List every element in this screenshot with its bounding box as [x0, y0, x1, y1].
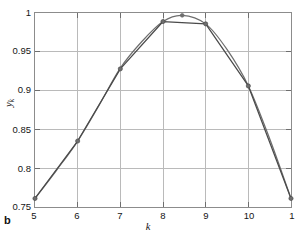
- data-point-marker: [33, 196, 37, 200]
- plot-svg: [35, 13, 291, 207]
- x-axis-title: k: [0, 220, 296, 230]
- data-point-marker: [289, 196, 293, 200]
- figure-panel: 1 0.95 0.9 0.85 0.8 0.75 yk: [0, 0, 296, 230]
- peak-marker: [180, 13, 184, 17]
- y-tick-label: 1: [26, 8, 31, 18]
- data-point-marker: [118, 67, 122, 71]
- y-axis-title: yk: [2, 92, 16, 114]
- x-axis-title-var: k: [146, 221, 151, 230]
- plot-area: [34, 12, 292, 208]
- panel-letter: b: [4, 215, 11, 226]
- grid-vertical: [78, 13, 249, 207]
- data-point-marker: [204, 22, 208, 26]
- y-axis-tick-labels: 1 0.95 0.9 0.85 0.8 0.75: [0, 0, 31, 230]
- y-tick-label: 0.85: [13, 125, 32, 135]
- y-tick-label: 0.95: [13, 46, 32, 56]
- data-point-marker: [76, 139, 80, 143]
- y-tick-label: 0.9: [18, 86, 31, 96]
- y-tick-label: 0.8: [18, 164, 31, 174]
- data-point-marker: [246, 84, 250, 88]
- peak-point-marker: [180, 13, 184, 17]
- y-axis-title-subscript: k: [7, 99, 16, 102]
- y-axis-title-var: y: [3, 102, 14, 107]
- data-point-marker: [161, 19, 165, 23]
